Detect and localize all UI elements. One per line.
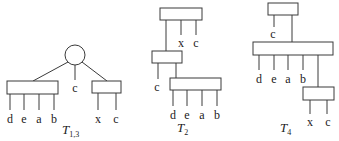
tree-title-t4: T4 <box>280 120 291 137</box>
tree-t2: x c c d e a b T2 <box>152 8 221 137</box>
tree-diagrams: d e a b c x c T1,3 x c c <box>0 0 339 141</box>
leaf-label: c <box>72 81 77 95</box>
edge-root-leftbox <box>33 62 68 81</box>
tree-title-t2: T2 <box>177 120 188 137</box>
t13-left-box-node <box>7 81 58 94</box>
leaf-label: a <box>36 112 42 126</box>
t2-top-box-node <box>160 8 202 20</box>
tree-title-t13: T1,3 <box>62 122 79 139</box>
t4-top-box-node <box>268 3 298 15</box>
t13-right-box-node <box>92 81 121 93</box>
leaf-label: c <box>325 115 330 129</box>
leaf-label: e <box>184 108 189 122</box>
leaf-label: c <box>113 112 118 126</box>
tree-t13: d e a b c x c T1,3 <box>7 45 121 139</box>
leaf-label: x <box>178 36 184 50</box>
leaf-label: a <box>285 72 291 86</box>
leaf-label: a <box>199 108 205 122</box>
leaf-label: d <box>7 112 13 126</box>
root-circle-node <box>65 45 85 65</box>
leaf-label: e <box>271 72 276 86</box>
leaf-label: x <box>95 112 101 126</box>
t2-middle-box-node <box>152 51 182 63</box>
leaf-label: e <box>21 112 26 126</box>
leaf-label: d <box>256 72 262 86</box>
leaf-label: c <box>193 36 198 50</box>
t4-bottom-box-node <box>303 87 334 100</box>
leaf-label: b <box>51 112 57 126</box>
t4-wide-box-node <box>253 42 333 55</box>
leaf-label: d <box>170 108 176 122</box>
leaf-label: x <box>307 115 313 129</box>
tree-t4: c d e a b x c T4 <box>253 3 334 137</box>
leaf-label: b <box>214 108 220 122</box>
leaf-label: b <box>300 72 306 86</box>
t2-bottom-box-node <box>170 78 221 90</box>
leaf-label: c <box>270 27 275 41</box>
leaf-label: c <box>154 80 159 94</box>
edge-root-rightbox <box>82 62 107 81</box>
